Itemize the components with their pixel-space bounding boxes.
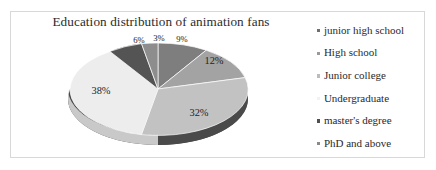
pie-chart-plot-area: Education distribution of animation fans xyxy=(11,12,311,157)
legend-item-label: High school xyxy=(324,47,377,58)
legend-item-label: master's degree xyxy=(324,115,392,126)
data-label-phd-and-above: 3% xyxy=(153,33,164,43)
legend-item-masters-degree[interactable]: master's degree xyxy=(311,109,424,132)
data-label-junior-college: 32% xyxy=(189,107,208,118)
data-label-high-school: 12% xyxy=(204,55,223,66)
legend-item-label: Undergraduate xyxy=(324,93,389,104)
data-label-undergraduate: 38% xyxy=(91,85,110,96)
pie-chart-graphic: 6% 3% 9% 12% 32% 38% xyxy=(51,31,266,157)
legend-item-undergraduate[interactable]: Undergraduate xyxy=(311,87,424,110)
legend-item-junior-college[interactable]: Junior college xyxy=(311,64,424,87)
legend-item-phd-and-above[interactable]: PhD and above xyxy=(311,132,424,155)
chart-title: Education distribution of animation fans xyxy=(11,14,311,30)
legend-item-label: junior high school xyxy=(324,25,404,36)
legend-marker-icon xyxy=(317,142,320,145)
chart-legend: junior high school High school Junior co… xyxy=(311,19,424,157)
legend-marker-icon xyxy=(317,52,320,55)
legend-item-high-school[interactable]: High school xyxy=(311,42,424,65)
legend-item-label: PhD and above xyxy=(324,138,391,149)
legend-marker-icon xyxy=(317,97,320,100)
legend-item-junior-high-school[interactable]: junior high school xyxy=(311,19,424,42)
chart-figure-frame: Education distribution of animation fans xyxy=(10,11,425,158)
legend-marker-icon xyxy=(317,119,320,122)
data-label-masters-degree: 6% xyxy=(133,35,144,45)
legend-marker-icon xyxy=(317,74,320,77)
legend-item-label: Junior college xyxy=(324,70,386,81)
legend-marker-icon xyxy=(317,29,320,32)
pie-svg: 6% 3% 9% 12% 32% 38% xyxy=(51,31,266,157)
data-label-junior-high-school: 9% xyxy=(176,34,187,44)
